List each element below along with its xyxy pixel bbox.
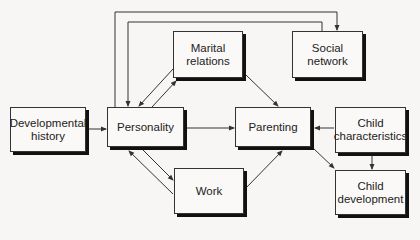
node-parenting: Parenting bbox=[235, 107, 311, 147]
edge-marital-to-parenting bbox=[246, 75, 278, 106]
node-label: characteristics bbox=[334, 130, 408, 143]
node-label: Developmental bbox=[10, 117, 87, 130]
node-label: relations bbox=[186, 55, 229, 68]
node-personality: Personality bbox=[107, 107, 184, 147]
node-label: Parenting bbox=[248, 121, 297, 134]
edge-parenting-to-childdev bbox=[313, 148, 334, 168]
node-developmental-history: Developmental history bbox=[10, 107, 86, 152]
node-social-network: Social network bbox=[292, 31, 363, 78]
node-marital-relations: Marital relations bbox=[173, 31, 243, 78]
node-label: Work bbox=[196, 185, 223, 198]
node-child-characteristics: Child characteristics bbox=[335, 107, 406, 153]
node-label: development bbox=[338, 193, 404, 206]
node-work: Work bbox=[174, 168, 244, 214]
edge-personality-to-work bbox=[142, 149, 173, 180]
node-label: network bbox=[307, 55, 347, 68]
node-label: Child bbox=[357, 180, 383, 193]
edge-work-to-parenting bbox=[245, 151, 282, 189]
node-label: Marital bbox=[191, 42, 226, 55]
edge-marital-to-personality bbox=[139, 69, 173, 106]
node-label: Child bbox=[357, 117, 383, 130]
edge-personality-to-marital bbox=[152, 81, 176, 107]
node-label: Social bbox=[312, 42, 343, 55]
node-child-development: Child development bbox=[335, 170, 406, 215]
node-label: Personality bbox=[117, 121, 174, 134]
node-label: history bbox=[31, 130, 65, 143]
